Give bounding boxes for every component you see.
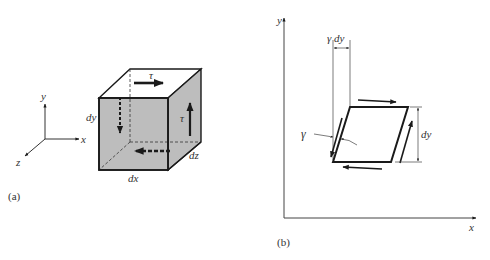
triad-z-label: z: [15, 156, 21, 168]
caption-b: (b): [277, 236, 290, 249]
b-y-label: y: [276, 14, 282, 26]
figure-a: y x z τ τ dy dx: [8, 69, 201, 203]
b-x-label: x: [468, 221, 474, 233]
z-axis-arrow: [25, 139, 45, 156]
deformed-element: [333, 107, 408, 162]
figure-b: y x γ dy γ dy (b): [276, 14, 476, 249]
gamma-arrow-left: [314, 134, 333, 137]
triad-y-label: y: [40, 90, 46, 102]
dy-label: dy: [421, 128, 432, 140]
dim-dx-label: dx: [128, 172, 139, 184]
caption-a: (a): [8, 190, 21, 203]
diagram-canvas: y x z τ τ dy dx: [0, 0, 490, 260]
triad-x-label: x: [80, 133, 86, 145]
b-top-shear-arrow: [358, 100, 396, 102]
cube-front-face: [99, 98, 168, 170]
gamma-label: γ: [301, 127, 306, 141]
dim-dz-label: dz: [189, 149, 200, 161]
dim-dy-label: dy: [86, 111, 97, 123]
b-bottom-shear-arrow: [343, 167, 382, 169]
gamma-dy-label: γ dy: [327, 32, 345, 44]
axis-triad: [25, 104, 79, 156]
